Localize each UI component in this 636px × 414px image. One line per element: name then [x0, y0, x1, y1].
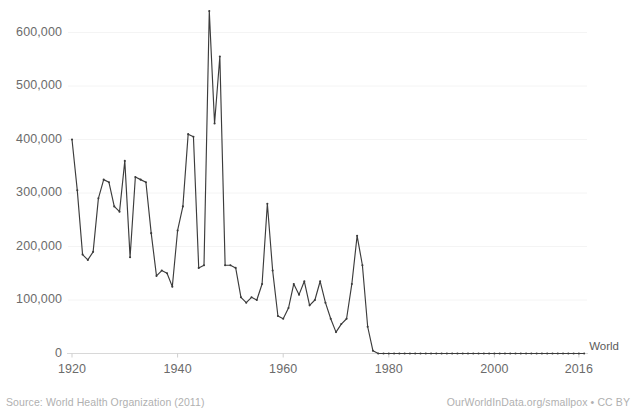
data-point[interactable]: [118, 211, 120, 213]
data-point[interactable]: [192, 136, 194, 138]
data-point[interactable]: [235, 267, 237, 269]
data-point[interactable]: [451, 352, 453, 354]
data-point[interactable]: [335, 331, 337, 333]
data-point[interactable]: [472, 352, 474, 354]
data-point[interactable]: [314, 299, 316, 301]
data-point[interactable]: [92, 251, 94, 253]
data-point[interactable]: [425, 352, 427, 354]
data-point[interactable]: [514, 352, 516, 354]
data-point[interactable]: [382, 352, 384, 354]
data-point[interactable]: [103, 179, 105, 181]
data-point[interactable]: [388, 352, 390, 354]
data-point[interactable]: [97, 197, 99, 199]
data-point[interactable]: [219, 56, 221, 58]
data-point[interactable]: [166, 272, 168, 274]
data-point[interactable]: [150, 232, 152, 234]
data-point[interactable]: [124, 160, 126, 162]
data-point[interactable]: [240, 296, 242, 298]
data-point[interactable]: [414, 352, 416, 354]
data-point[interactable]: [182, 205, 184, 207]
data-point[interactable]: [456, 352, 458, 354]
data-point[interactable]: [446, 352, 448, 354]
data-point[interactable]: [293, 283, 295, 285]
data-point[interactable]: [409, 352, 411, 354]
series-line-world[interactable]: [72, 11, 584, 353]
data-point[interactable]: [330, 318, 332, 320]
data-point[interactable]: [161, 270, 163, 272]
data-point[interactable]: [361, 264, 363, 266]
data-point[interactable]: [504, 352, 506, 354]
data-point[interactable]: [351, 283, 353, 285]
data-point[interactable]: [134, 176, 136, 178]
data-point[interactable]: [245, 302, 247, 304]
data-point[interactable]: [324, 302, 326, 304]
data-point[interactable]: [567, 352, 569, 354]
data-point[interactable]: [229, 264, 231, 266]
data-point[interactable]: [578, 352, 580, 354]
data-point[interactable]: [478, 352, 480, 354]
data-point[interactable]: [509, 352, 511, 354]
data-point[interactable]: [367, 326, 369, 328]
data-point[interactable]: [583, 352, 585, 354]
data-point[interactable]: [493, 352, 495, 354]
data-point[interactable]: [520, 352, 522, 354]
data-point[interactable]: [177, 229, 179, 231]
data-point[interactable]: [261, 283, 263, 285]
data-point[interactable]: [155, 275, 157, 277]
data-point[interactable]: [551, 352, 553, 354]
data-point[interactable]: [309, 304, 311, 306]
data-point[interactable]: [573, 352, 575, 354]
data-point[interactable]: [404, 352, 406, 354]
data-point[interactable]: [462, 352, 464, 354]
data-point[interactable]: [499, 352, 501, 354]
data-point[interactable]: [266, 203, 268, 205]
data-point[interactable]: [435, 352, 437, 354]
data-point[interactable]: [377, 352, 379, 354]
data-point[interactable]: [272, 270, 274, 272]
data-point[interactable]: [557, 352, 559, 354]
data-point[interactable]: [398, 352, 400, 354]
data-point[interactable]: [393, 352, 395, 354]
data-point[interactable]: [541, 352, 543, 354]
data-point[interactable]: [108, 181, 110, 183]
data-point[interactable]: [303, 280, 305, 282]
data-point[interactable]: [250, 296, 252, 298]
data-point[interactable]: [76, 189, 78, 191]
data-point[interactable]: [145, 181, 147, 183]
attribution-note[interactable]: OurWorldInData.org/smallpox • CC BY: [447, 396, 630, 408]
data-point[interactable]: [198, 267, 200, 269]
data-point[interactable]: [171, 286, 173, 288]
data-point[interactable]: [256, 299, 258, 301]
data-point[interactable]: [536, 352, 538, 354]
data-point[interactable]: [298, 294, 300, 296]
data-point[interactable]: [488, 352, 490, 354]
data-point[interactable]: [71, 138, 73, 140]
data-point[interactable]: [483, 352, 485, 354]
data-point[interactable]: [187, 133, 189, 135]
data-point[interactable]: [441, 352, 443, 354]
data-point[interactable]: [419, 352, 421, 354]
data-point[interactable]: [113, 205, 115, 207]
data-point[interactable]: [87, 259, 89, 261]
data-point[interactable]: [467, 352, 469, 354]
data-point[interactable]: [82, 253, 84, 255]
data-point[interactable]: [203, 264, 205, 266]
data-point[interactable]: [282, 318, 284, 320]
data-point[interactable]: [340, 323, 342, 325]
data-point[interactable]: [319, 280, 321, 282]
data-point[interactable]: [372, 350, 374, 352]
data-point[interactable]: [287, 307, 289, 309]
data-point[interactable]: [346, 318, 348, 320]
data-point[interactable]: [208, 10, 210, 12]
data-point[interactable]: [224, 264, 226, 266]
data-point[interactable]: [562, 352, 564, 354]
data-point[interactable]: [214, 122, 216, 124]
data-point[interactable]: [129, 256, 131, 258]
data-point[interactable]: [277, 315, 279, 317]
data-point[interactable]: [140, 179, 142, 181]
data-point[interactable]: [530, 352, 532, 354]
data-point[interactable]: [525, 352, 527, 354]
data-point[interactable]: [430, 352, 432, 354]
data-point[interactable]: [356, 235, 358, 237]
data-point[interactable]: [546, 352, 548, 354]
